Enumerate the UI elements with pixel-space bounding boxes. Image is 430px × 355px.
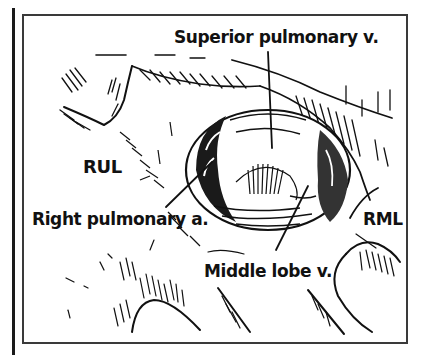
label-right-pulmonary-artery: Right pulmonary a. — [32, 211, 208, 228]
hilum-illustration — [0, 0, 430, 355]
label-middle-lobe-vein: Middle lobe v. — [204, 263, 332, 280]
lower-retractor-fingers — [66, 234, 400, 334]
label-rul: RUL — [83, 158, 122, 176]
label-superior-pulmonary-vein: Superior pulmonary v. — [174, 29, 378, 46]
hilum-window-oval — [186, 110, 350, 230]
label-rml: RML — [363, 211, 403, 228]
